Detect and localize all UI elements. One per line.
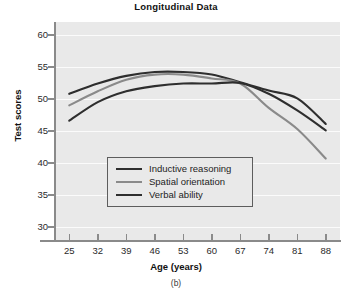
series-line bbox=[69, 82, 326, 130]
series-line bbox=[69, 74, 326, 159]
x-axis-tick-label: 88 bbox=[311, 245, 341, 256]
legend-line-swatch bbox=[116, 168, 142, 170]
legend-line-swatch bbox=[116, 194, 142, 196]
x-axis-tick-label: 39 bbox=[111, 245, 141, 256]
y-axis-tick bbox=[48, 226, 55, 228]
legend-item[interactable]: Verbal ability bbox=[116, 188, 246, 201]
x-axis-tick bbox=[154, 234, 156, 241]
longitudinal-data-figure: Longitudinal Data 30354045505560 Test sc… bbox=[0, 0, 352, 295]
y-axis-tick-label: 40 bbox=[22, 157, 48, 168]
legend-item[interactable]: Spatial orientation bbox=[116, 175, 246, 188]
y-axis-tick-label: 50 bbox=[22, 93, 48, 104]
y-axis-tick-label: 60 bbox=[22, 29, 48, 40]
legend-line-swatch bbox=[116, 181, 142, 183]
y-axis-tick bbox=[48, 194, 55, 196]
y-axis-tick bbox=[48, 162, 55, 164]
x-axis-tick-label: 46 bbox=[140, 245, 170, 256]
series-lines bbox=[55, 22, 340, 240]
x-axis-tick-label: 81 bbox=[282, 245, 312, 256]
x-axis-tick-label: 74 bbox=[254, 245, 284, 256]
x-axis-title: Age (years) bbox=[0, 261, 352, 272]
y-axis-tick bbox=[48, 130, 55, 132]
x-axis-tick-label: 60 bbox=[197, 245, 227, 256]
x-axis-tick bbox=[126, 234, 128, 241]
chart-title: Longitudinal Data bbox=[0, 1, 352, 12]
y-axis-tick-label: 45 bbox=[22, 125, 48, 136]
x-axis-tick bbox=[97, 234, 99, 241]
x-axis-tick bbox=[325, 234, 327, 241]
y-axis-tick-label: 55 bbox=[22, 61, 48, 72]
x-axis-tick bbox=[69, 234, 71, 241]
chart-legend: Inductive reasoningSpatial orientationVe… bbox=[107, 157, 253, 207]
figure-caption: (b) bbox=[0, 278, 352, 288]
x-axis-tick-label: 53 bbox=[168, 245, 198, 256]
legend-label: Verbal ability bbox=[149, 189, 203, 200]
legend-label: Inductive reasoning bbox=[149, 163, 231, 174]
y-axis-tick bbox=[48, 66, 55, 68]
legend-item[interactable]: Inductive reasoning bbox=[116, 162, 246, 175]
y-axis-tick bbox=[48, 98, 55, 100]
x-axis-tick bbox=[240, 234, 242, 241]
x-axis-tick-label: 67 bbox=[225, 245, 255, 256]
y-axis-tick-label: 30 bbox=[22, 221, 48, 232]
x-axis-tick bbox=[183, 234, 185, 241]
y-axis-title: Test scores bbox=[12, 73, 23, 159]
x-axis-tick bbox=[211, 234, 213, 241]
x-axis-tick bbox=[268, 234, 270, 241]
y-axis-tick-label: 35 bbox=[22, 189, 48, 200]
x-axis-tick-label: 32 bbox=[83, 245, 113, 256]
x-axis-tick-label: 25 bbox=[54, 245, 84, 256]
y-axis-tick bbox=[48, 34, 55, 36]
plot-area bbox=[55, 22, 340, 240]
x-axis-tick bbox=[297, 234, 299, 241]
legend-label: Spatial orientation bbox=[149, 176, 225, 187]
